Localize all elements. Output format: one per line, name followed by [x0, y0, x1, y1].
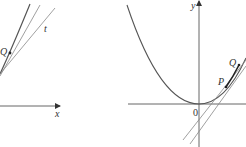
label-x: x [54, 108, 60, 119]
label-q: Q [229, 57, 237, 68]
curve [0, 4, 30, 74]
right-panel: y 0 P Q [127, 0, 246, 147]
point-q-marker [9, 52, 12, 55]
tangent-line-t [0, 8, 55, 74]
parabola [127, 5, 246, 104]
point-q-marker [238, 64, 241, 67]
secant-line [0, 5, 40, 76]
label-y: y [190, 0, 196, 11]
figure: Q t x y 0 P Q [0, 0, 246, 147]
label-origin: 0 [193, 107, 198, 118]
secant-line-1 [183, 60, 246, 140]
label-q: Q [0, 46, 8, 57]
label-t: t [44, 23, 47, 34]
left-panel: Q t x [0, 4, 60, 119]
point-p-marker [225, 86, 228, 89]
label-p: P [217, 76, 224, 87]
